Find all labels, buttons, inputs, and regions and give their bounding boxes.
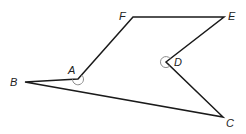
hexagon-diagram: A B C D E F [0, 0, 246, 134]
hexagon-outline [25, 17, 224, 117]
vertex-label-e: E [228, 10, 236, 22]
vertex-label-f: F [119, 10, 127, 22]
vertex-label-a: A [67, 64, 75, 76]
reflex-angle-arc-a [73, 75, 84, 85]
vertex-label-c: C [226, 117, 234, 129]
vertex-label-b: B [10, 76, 17, 88]
vertex-label-d: D [174, 56, 182, 68]
